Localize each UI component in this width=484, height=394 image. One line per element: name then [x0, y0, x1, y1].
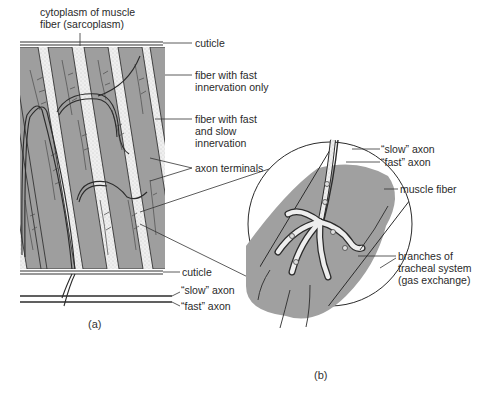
label-cuticle-bottom: cuticle [182, 266, 212, 278]
caption-panel-a: (a) [88, 318, 101, 330]
label-fast-axon-b: “fast” axon [381, 156, 431, 168]
label-slow-axon-a: “slow” axon [181, 284, 235, 296]
label-fast-axon-a: “fast” axon [181, 300, 231, 312]
label-slow-axon-b: “slow” axon [381, 143, 435, 155]
label-tracheal-branches: branches of tracheal system (gas exchang… [398, 250, 472, 286]
caption-panel-b: (b) [314, 369, 327, 381]
label-sarcoplasm: cytoplasm of muscle fiber (sarcoplasm) [40, 6, 135, 30]
label-fiber-fast-only: fiber with fast innervation only [195, 69, 269, 93]
panel-a-muscle-block [0, 42, 205, 306]
label-muscle-fiber: muscle fiber [400, 183, 457, 195]
panel-b-magnified-junction [240, 140, 412, 330]
label-cuticle-top: cuticle [195, 37, 225, 49]
muscle-innervation-diagram [0, 0, 484, 394]
label-axon-terminals: axon terminals [195, 162, 263, 174]
label-fiber-fast-slow: fiber with fast and slow innervation [195, 113, 257, 149]
